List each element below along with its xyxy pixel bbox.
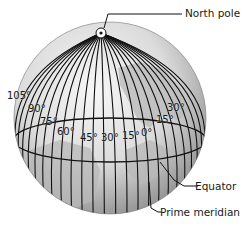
meridian-label: 15° — [156, 115, 174, 125]
meridian-label: 0° — [141, 128, 152, 138]
meridian-label: 105° — [7, 91, 31, 101]
meridian-label: 60° — [57, 127, 75, 137]
meridian-label: 75° — [40, 117, 58, 127]
prime-meridian-label: Prime meridian — [160, 207, 240, 218]
north-pole-label: North pole — [185, 8, 240, 19]
meridian-label: 15° — [122, 131, 140, 141]
meridian-label: 90° — [28, 104, 46, 114]
globe-graphic — [0, 0, 241, 230]
globe-diagram: North pole Equator Prime meridian 105°90… — [0, 0, 241, 230]
meridian-label: 45° — [80, 133, 98, 143]
meridian-label: 30° — [167, 103, 185, 113]
equator-label: Equator — [195, 181, 236, 192]
meridian-label: 30° — [101, 133, 119, 143]
